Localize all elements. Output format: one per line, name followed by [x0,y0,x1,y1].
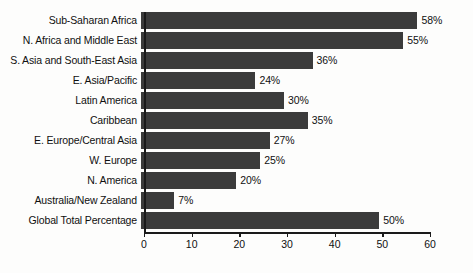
bar-track: 55% [141,30,473,50]
bar-row: N. Africa and Middle East55% [0,30,473,50]
x-axis-tick-label: 0 [141,238,147,250]
bar-value-label: 58% [421,15,442,26]
y-axis-line [144,12,146,233]
bar-value-label: 7% [178,195,193,206]
x-axis-tick-mark [239,232,240,237]
bar-value-label: 24% [259,75,280,86]
category-label: W. Europe [0,155,141,166]
bar-row: N. America20% [0,170,473,190]
bar [141,212,379,229]
bar-row: Latin America30% [0,90,473,110]
x-axis-tick-mark [287,232,288,237]
bar [141,132,270,149]
plot-area: Sub-Saharan Africa58%N. Africa and Middl… [0,10,473,232]
bar-track: 27% [141,130,473,150]
x-axis-tick-mark [430,232,431,237]
bar-row: Sub-Saharan Africa58% [0,10,473,30]
x-axis-tick-mark [382,232,383,237]
x-axis-tick-label: 10 [186,238,198,250]
bar [141,192,174,209]
bar-track: 7% [141,190,473,210]
x-axis-tick-mark [335,232,336,237]
bar-row: W. Europe25% [0,150,473,170]
bar-value-label: 55% [407,35,428,46]
bar-value-label: 35% [312,115,333,126]
bar-track: 20% [141,170,473,190]
category-label: E. Asia/Pacific [0,75,141,86]
bar [141,72,255,89]
category-label: S. Asia and South-East Asia [0,55,141,66]
bar-row: S. Asia and South-East Asia36% [0,50,473,70]
bar-value-label: 36% [317,55,338,66]
x-axis-tick-label: 30 [281,238,293,250]
bar [141,152,260,169]
bar [141,92,284,109]
bar-row: E. Asia/Pacific24% [0,70,473,90]
bar-track: 58% [141,10,473,30]
bar-value-label: 27% [274,135,295,146]
category-label: Caribbean [0,115,141,126]
category-label: Global Total Percentage [0,215,141,226]
bar-value-label: 30% [288,95,309,106]
bar [141,112,308,129]
x-axis-tick-label: 60 [424,238,436,250]
bar-track: 35% [141,110,473,130]
bar-track: 36% [141,50,473,70]
bar-value-label: 50% [383,215,404,226]
bar-row: Australia/New Zealand7% [0,190,473,210]
x-axis-tick-mark [192,232,193,237]
bar [141,12,417,29]
bar-value-label: 25% [264,155,285,166]
bar-value-label: 20% [240,175,261,186]
category-label: Australia/New Zealand [0,195,141,206]
bar-track: 24% [141,70,473,90]
category-label: N. America [0,175,141,186]
bar [141,52,313,69]
category-label: Sub-Saharan Africa [0,15,141,26]
category-label: E. Europe/Central Asia [0,135,141,146]
category-label: N. Africa and Middle East [0,35,141,46]
bar [141,32,403,49]
bar-row: Global Total Percentage50% [0,210,473,230]
x-axis: 0102030405060 [0,232,473,273]
bar-row: Caribbean35% [0,110,473,130]
x-axis-tick-label: 20 [233,238,245,250]
bar [141,172,236,189]
x-axis-tick-label: 40 [329,238,341,250]
category-label: Latin America [0,95,141,106]
x-axis-tick-label: 50 [376,238,388,250]
bar-track: 25% [141,150,473,170]
bar-track: 30% [141,90,473,110]
bar-row: E. Europe/Central Asia27% [0,130,473,150]
bar-track: 50% [141,210,473,230]
bar-chart: Sub-Saharan Africa58%N. Africa and Middl… [0,0,473,273]
